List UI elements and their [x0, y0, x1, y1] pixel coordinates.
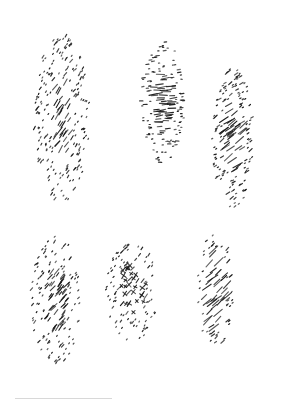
patch-diagonal-dense-tall	[34, 34, 90, 200]
hatching-patches	[0, 0, 291, 411]
patch-crosshatch-oval	[106, 244, 156, 340]
patch-diagonal-sparse	[198, 235, 233, 343]
patch-diagonal-speckle	[30, 236, 80, 363]
patch-diagonal-wavy	[212, 69, 254, 207]
patch-horizontal-dashes	[140, 42, 185, 163]
sketch-texture-canvas	[0, 0, 291, 411]
faint-baseline-rule	[15, 398, 112, 399]
